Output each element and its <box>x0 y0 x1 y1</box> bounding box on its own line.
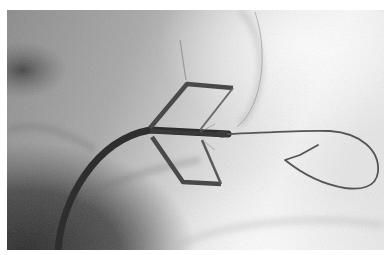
fluoroscopy-svg <box>7 10 384 250</box>
device-tip <box>216 131 228 138</box>
fluoroscopy-image <box>7 10 384 250</box>
